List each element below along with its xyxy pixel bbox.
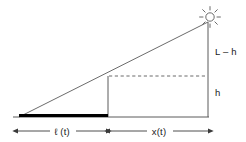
light-ray-line [19, 22, 208, 117]
sun-icon [199, 6, 221, 28]
label-shadow-dimension: ℓ (t) [54, 126, 70, 137]
label-distance-dimension: x(t) [152, 126, 167, 137]
shadow-geometry-diagram: L – h h ℓ (t) x(t) [0, 0, 246, 142]
label-lower-vertical: h [215, 87, 220, 98]
diagram-canvas: L – h h ℓ (t) x(t) [0, 0, 246, 142]
label-upper-vertical: L – h [215, 46, 237, 57]
